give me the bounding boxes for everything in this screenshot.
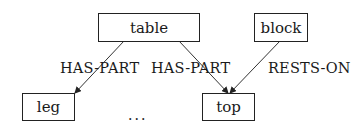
node-leg: leg: [22, 93, 75, 121]
node-block: block: [254, 13, 308, 42]
node-top: top: [202, 93, 255, 121]
edge-label-rests-on: RESTS-ON: [268, 60, 351, 76]
node-top-label: top: [216, 98, 241, 116]
ellipsis: ...: [128, 107, 147, 123]
node-block-label: block: [261, 19, 302, 37]
edge-label-has-part-top: HAS-PART: [151, 60, 230, 76]
node-table-label: table: [130, 19, 168, 37]
node-table: table: [98, 13, 200, 42]
edge-label-has-part-leg: HAS-PART: [60, 60, 139, 76]
node-leg-label: leg: [37, 98, 60, 116]
